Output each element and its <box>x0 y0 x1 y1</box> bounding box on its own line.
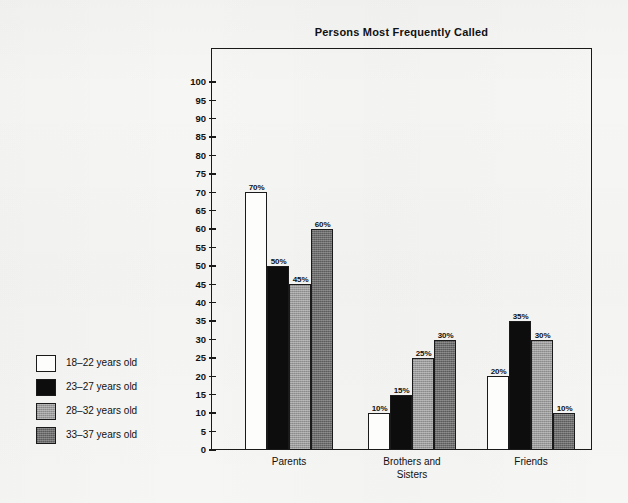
dark-gray-swatch <box>36 427 56 444</box>
bar: 15% <box>390 395 412 450</box>
y-axis-tick-label: 100 <box>190 77 206 87</box>
legend-item-label: 23–27 years old <box>66 382 137 392</box>
bar-value-label: 25% <box>416 350 432 358</box>
x-axis-category-label: Brothers and Sisters <box>352 455 472 481</box>
chart-title: Persons Most Frequently Called <box>211 26 592 38</box>
y-axis-tick-label: 65 <box>195 206 206 216</box>
bar-value-label: 20% <box>491 368 507 376</box>
bar: 10% <box>368 413 390 450</box>
legend: 18–22 years old23–27 years old28–32 year… <box>36 351 186 447</box>
y-axis-tick-label: 80 <box>195 151 206 161</box>
bar: 25% <box>412 358 434 450</box>
x-axis-category-label: Friends <box>471 455 591 468</box>
y-axis-tick-label: 55 <box>195 243 206 253</box>
bar-value-label: 30% <box>438 332 454 340</box>
y-axis-tick-label: 60 <box>195 224 206 234</box>
legend-item: 18–22 years old <box>36 351 186 375</box>
bar-value-label: 50% <box>271 258 287 266</box>
y-axis-tick-label: 0 <box>201 445 206 455</box>
y-axis-tick-label: 40 <box>195 298 206 308</box>
y-axis-tick-label: 20 <box>195 372 206 382</box>
bar: 50% <box>267 266 289 450</box>
bar: 30% <box>531 340 553 450</box>
bar: 35% <box>509 321 531 450</box>
bar-value-label: 15% <box>394 387 410 395</box>
bar-chart-figure: Persons Most Frequently Called 051015202… <box>0 0 628 503</box>
legend-item-label: 18–22 years old <box>66 358 137 368</box>
x-axis-category-labels: ParentsBrothers and SistersFriends <box>211 455 592 495</box>
y-axis-tick-label: 50 <box>195 261 206 271</box>
light-gray-swatch <box>36 403 56 420</box>
y-axis-tick-label: 85 <box>195 132 206 142</box>
y-axis-tick-label: 30 <box>195 335 206 345</box>
y-axis-tick-label: 75 <box>195 169 206 179</box>
y-axis-tick-label: 10 <box>195 408 206 418</box>
bar: 30% <box>434 340 456 450</box>
y-axis-tick-label: 35 <box>195 316 206 326</box>
y-axis-tick-label: 70 <box>195 188 206 198</box>
y-axis-tick-label: 90 <box>195 114 206 124</box>
legend-item: 33–37 years old <box>36 423 186 447</box>
y-axis-tick-label: 25 <box>195 353 206 363</box>
bar-value-label: 30% <box>535 332 551 340</box>
legend-item-label: 28–32 years old <box>66 406 137 416</box>
legend-item: 23–27 years old <box>36 375 186 399</box>
y-axis-tick-label: 45 <box>195 280 206 290</box>
bar: 20% <box>487 376 509 450</box>
bar-value-label: 70% <box>249 184 265 192</box>
bar: 45% <box>289 284 311 450</box>
bars-layer: 70%50%45%60%10%15%25%30%20%35%30%10% <box>211 48 592 450</box>
bar: 10% <box>553 413 575 450</box>
bar-value-label: 60% <box>315 221 331 229</box>
bar: 60% <box>311 229 333 450</box>
y-axis-tick-label: 15 <box>195 390 206 400</box>
bar-value-label: 35% <box>513 313 529 321</box>
y-axis-tick-label: 95 <box>195 96 206 106</box>
white-swatch <box>36 355 56 372</box>
y-axis-tick-label: 5 <box>201 427 206 437</box>
legend-item-label: 33–37 years old <box>66 430 137 440</box>
bar-value-label: 10% <box>372 405 388 413</box>
x-axis-category-label: Parents <box>229 455 349 468</box>
bar: 70% <box>245 192 267 450</box>
bar-value-label: 10% <box>557 405 573 413</box>
bar-value-label: 45% <box>293 276 309 284</box>
black-swatch <box>36 379 56 396</box>
legend-item: 28–32 years old <box>36 399 186 423</box>
